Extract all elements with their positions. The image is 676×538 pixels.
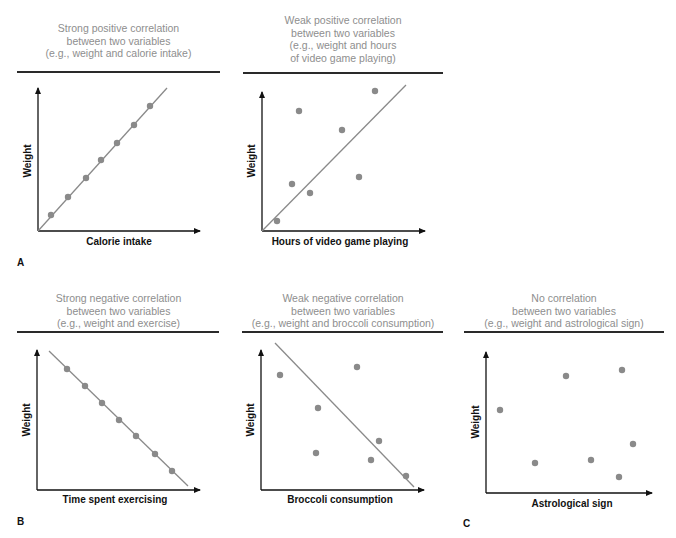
y-axis-label: Weight [246, 144, 257, 178]
plot-strong-negative: Time spent exercising Weight [21, 350, 200, 505]
y-axis-label: Weight [21, 403, 32, 437]
y-axis-label: Weight [245, 403, 256, 437]
x-axis-label: Time spent exercising [63, 494, 168, 505]
plot-no-correlation: Astrological sign Weight [470, 352, 652, 509]
y-axis-label: Weight [470, 405, 481, 439]
scatter-plots: Calorie intake Weight Hours of video gam… [0, 0, 676, 538]
data-points [497, 367, 636, 480]
trend-line [275, 343, 414, 487]
plot-weak-negative: Broccoli consumption Weight [245, 343, 424, 505]
y-axis-label: Weight [22, 144, 33, 178]
x-axis-label: Astrological sign [531, 498, 612, 509]
plot-strong-positive: Calorie intake Weight [22, 88, 200, 247]
x-axis-label: Broccoli consumption [287, 494, 393, 505]
x-axis-label: Hours of video game playing [272, 236, 409, 247]
x-axis-label: Calorie intake [86, 236, 152, 247]
trend-line [262, 85, 406, 231]
plot-weak-positive: Hours of video game playing Weight [246, 85, 425, 247]
